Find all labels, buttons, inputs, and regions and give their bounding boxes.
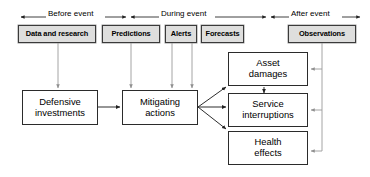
box-data-and-research-label: Data and research xyxy=(24,30,90,38)
phase-label-during: During event xyxy=(159,9,208,18)
connector-mitigating-to-health xyxy=(198,107,226,129)
box-mitigating-actions-line1: Mitigating xyxy=(138,97,182,108)
box-defensive-investments-line1: Defensive xyxy=(33,97,87,108)
connector-mitigating-to-asset xyxy=(198,87,226,107)
box-asset-damages[interactable]: Asset damages xyxy=(228,52,308,86)
phase-label-after: After event xyxy=(289,9,332,18)
box-mitigating-actions[interactable]: Mitigating actions xyxy=(122,90,198,125)
box-defensive-investments-line2: investments xyxy=(33,108,87,119)
box-health-effects-line2: effects xyxy=(252,148,283,159)
box-defensive-investments[interactable]: Defensive investments xyxy=(22,90,98,125)
phase-label-before: Before event xyxy=(46,9,95,18)
box-asset-damages-line2: damages xyxy=(247,69,290,80)
box-forecasts[interactable]: Forecasts xyxy=(201,25,244,43)
box-service-interruptions[interactable]: Service interruptions xyxy=(228,93,308,127)
box-alerts-label: Alerts xyxy=(169,30,193,38)
box-predictions[interactable]: Predictions xyxy=(102,25,160,43)
diagram-canvas: Before event During event After event Da… xyxy=(0,0,370,177)
box-service-interruptions-line2: interruptions xyxy=(240,110,296,121)
box-mitigating-actions-line2: actions xyxy=(138,108,182,119)
box-observations-label: Observations xyxy=(297,30,347,38)
box-health-effects[interactable]: Health effects xyxy=(228,131,308,165)
box-alerts[interactable]: Alerts xyxy=(165,25,197,43)
box-data-and-research[interactable]: Data and research xyxy=(18,25,96,43)
box-forecasts-label: Forecasts xyxy=(203,30,241,38)
box-predictions-label: Predictions xyxy=(109,30,152,38)
box-observations[interactable]: Observations xyxy=(288,25,356,43)
